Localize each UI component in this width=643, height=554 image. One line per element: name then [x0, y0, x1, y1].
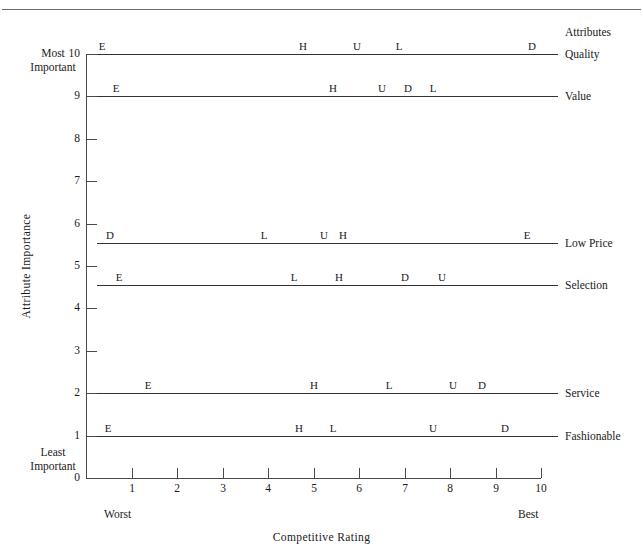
brand-mark: L	[326, 423, 340, 434]
x-tick-label-9: 9	[484, 482, 508, 494]
y-axis-bottom-caption-line2: Important	[30, 460, 75, 472]
x-tick-label-5: 5	[302, 482, 326, 494]
y-tick-label-10: 10	[58, 48, 80, 60]
x-tick-3	[223, 468, 224, 478]
brand-mark: H	[336, 230, 350, 241]
brand-mark: D	[401, 83, 415, 94]
x-tick-label-2: 2	[165, 482, 189, 494]
x-tick-label-10: 10	[529, 482, 553, 494]
brand-mark: U	[446, 380, 460, 391]
y-tick-label-8: 8	[58, 133, 80, 145]
x-tick-1	[132, 468, 133, 478]
y-axis-title: Attribute Importance	[20, 206, 32, 326]
brand-mark: H	[292, 423, 306, 434]
brand-mark: E	[101, 423, 115, 434]
brand-mark: E	[109, 83, 123, 94]
brand-mark: D	[525, 41, 539, 52]
y-tick-label-9: 9	[58, 90, 80, 102]
brand-mark: L	[426, 83, 440, 94]
x-tick-8	[450, 468, 451, 478]
brand-mark: H	[307, 380, 321, 391]
brand-mark: D	[498, 423, 512, 434]
y-tick-label-4: 4	[58, 302, 80, 314]
brand-mark: E	[112, 272, 126, 283]
attribute-line	[97, 285, 558, 286]
brand-mark: E	[95, 41, 109, 52]
y-tick-7	[87, 181, 97, 182]
brand-mark: L	[257, 230, 271, 241]
y-axis-bottom-caption: LeastImportant	[22, 446, 84, 473]
y-tick-label-0: 0	[58, 472, 80, 484]
y-tick-3	[87, 351, 97, 352]
y-tick-9	[87, 96, 97, 97]
x-axis-line	[86, 478, 541, 479]
x-tick-label-8: 8	[438, 482, 462, 494]
attribute-line	[97, 393, 558, 394]
attribute-label: Low Price	[565, 237, 613, 249]
x-tick-9	[496, 468, 497, 478]
brand-mark: U	[317, 230, 331, 241]
attribute-label: Selection	[565, 279, 608, 291]
y-tick-label-1: 1	[58, 430, 80, 442]
x-tick-6	[359, 468, 360, 478]
y-axis-bottom-caption-line1: Least	[41, 446, 66, 458]
x-tick-5	[314, 468, 315, 478]
brand-mark: D	[103, 230, 117, 241]
brand-mark: U	[435, 272, 449, 283]
x-axis-right-caption: Best	[518, 508, 538, 522]
y-tick-0	[87, 478, 97, 479]
brand-mark: L	[287, 272, 301, 283]
y-tick-4	[87, 308, 97, 309]
brand-mark: U	[375, 83, 389, 94]
brand-mark: U	[350, 41, 364, 52]
attribute-line	[97, 54, 558, 55]
brand-mark: H	[326, 83, 340, 94]
x-tick-label-6: 6	[347, 482, 371, 494]
y-tick-8	[87, 139, 97, 140]
brand-mark: H	[296, 41, 310, 52]
x-tick-label-3: 3	[211, 482, 235, 494]
y-tick-label-5: 5	[58, 260, 80, 272]
attribute-label: Fashionable	[565, 430, 621, 442]
brand-mark: D	[398, 272, 412, 283]
y-tick-label-2: 2	[58, 387, 80, 399]
attribute-line	[97, 243, 558, 244]
x-tick-label-7: 7	[393, 482, 417, 494]
x-tick-4	[268, 468, 269, 478]
competitive-rating-chart: Attributes MostImportant LeastImportant …	[0, 0, 643, 554]
attribute-label: Quality	[565, 48, 600, 60]
brand-mark: H	[332, 272, 346, 283]
y-tick-1	[87, 436, 97, 437]
attributes-column-header: Attributes	[565, 26, 611, 40]
x-tick-10	[541, 468, 542, 478]
y-tick-label-6: 6	[58, 218, 80, 230]
brand-mark: D	[475, 380, 489, 391]
attribute-line	[97, 436, 558, 437]
y-tick-label-7: 7	[58, 175, 80, 187]
y-tick-label-3: 3	[58, 345, 80, 357]
top-divider-rule	[2, 9, 641, 10]
x-tick-label-1: 1	[120, 482, 144, 494]
y-tick-2	[87, 393, 97, 394]
brand-mark: L	[382, 380, 396, 391]
y-tick-5	[87, 266, 97, 267]
x-axis-left-caption: Worst	[104, 508, 131, 522]
attribute-line	[97, 96, 558, 97]
x-tick-2	[177, 468, 178, 478]
x-tick-label-4: 4	[256, 482, 280, 494]
y-axis-top-caption-line2: Important	[30, 61, 75, 73]
x-tick-7	[405, 468, 406, 478]
y-tick-10	[87, 54, 97, 55]
brand-mark: U	[426, 423, 440, 434]
attribute-label: Service	[565, 387, 599, 399]
x-axis-title: Competitive Rating	[0, 531, 643, 545]
y-tick-6	[87, 224, 97, 225]
attribute-label: Value	[565, 90, 591, 102]
brand-mark: L	[392, 41, 406, 52]
brand-mark: E	[141, 380, 155, 391]
brand-mark: E	[520, 230, 534, 241]
